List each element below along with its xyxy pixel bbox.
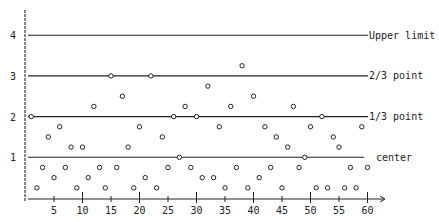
data-point bbox=[240, 64, 244, 68]
data-point bbox=[348, 165, 352, 169]
x-tick-label: 55 bbox=[333, 205, 345, 216]
data-point bbox=[86, 175, 90, 179]
data-point bbox=[297, 165, 301, 169]
data-point bbox=[200, 175, 204, 179]
data-point bbox=[177, 155, 181, 159]
control-chart: 1234 Upper limit2/3 point1/3 pointcenter… bbox=[0, 0, 439, 222]
data-point bbox=[365, 165, 369, 169]
y-tick-label: 4 bbox=[10, 30, 16, 41]
data-point bbox=[286, 145, 290, 149]
reference-lines: Upper limit2/3 point1/3 pointcenter bbox=[28, 30, 435, 163]
data-point bbox=[132, 186, 136, 190]
data-point bbox=[223, 186, 227, 190]
data-point bbox=[291, 104, 295, 108]
data-point bbox=[160, 135, 164, 139]
data-point bbox=[97, 165, 101, 169]
data-point bbox=[29, 114, 33, 118]
reference-line-label: Upper limit bbox=[369, 30, 435, 41]
y-tick-label: 3 bbox=[10, 71, 16, 82]
x-tick-label: 25 bbox=[162, 205, 174, 216]
data-point bbox=[149, 74, 153, 78]
x-tick-label: 5 bbox=[51, 205, 57, 216]
data-point bbox=[172, 114, 176, 118]
data-point bbox=[251, 94, 255, 98]
data-point bbox=[189, 165, 193, 169]
data-point bbox=[211, 175, 215, 179]
data-point bbox=[331, 135, 335, 139]
data-point bbox=[143, 175, 147, 179]
x-axis: 51015202530354045505560 bbox=[28, 192, 385, 216]
data-point bbox=[314, 186, 318, 190]
data-point bbox=[40, 165, 44, 169]
data-point bbox=[63, 165, 67, 169]
data-point bbox=[246, 186, 250, 190]
data-point bbox=[229, 104, 233, 108]
data-point bbox=[217, 125, 221, 129]
data-point bbox=[320, 114, 324, 118]
data-point bbox=[92, 104, 96, 108]
data-point bbox=[183, 104, 187, 108]
x-tick-label: 50 bbox=[304, 205, 316, 216]
x-tick-label: 35 bbox=[219, 205, 231, 216]
y-tick-label: 1 bbox=[10, 152, 16, 163]
x-tick-label: 45 bbox=[276, 205, 288, 216]
data-point bbox=[206, 84, 210, 88]
data-point bbox=[103, 186, 107, 190]
data-point bbox=[166, 165, 170, 169]
data-point bbox=[263, 125, 267, 129]
y-tick-labels: 1234 bbox=[10, 30, 16, 163]
data-points bbox=[29, 64, 370, 191]
data-point bbox=[280, 186, 284, 190]
data-point bbox=[308, 125, 312, 129]
data-point bbox=[303, 155, 307, 159]
data-point bbox=[75, 186, 79, 190]
data-point bbox=[154, 186, 158, 190]
data-point bbox=[343, 186, 347, 190]
data-point bbox=[69, 145, 73, 149]
x-tick-label: 40 bbox=[247, 205, 259, 216]
data-point bbox=[35, 186, 39, 190]
data-point bbox=[257, 175, 261, 179]
data-point bbox=[80, 145, 84, 149]
data-point bbox=[354, 186, 358, 190]
reference-line-label: 1/3 point bbox=[369, 111, 423, 122]
reference-line-label: 2/3 point bbox=[369, 70, 423, 81]
data-point bbox=[325, 186, 329, 190]
y-tick-label: 2 bbox=[10, 112, 16, 123]
data-point bbox=[126, 145, 130, 149]
data-point bbox=[115, 165, 119, 169]
data-point bbox=[337, 145, 341, 149]
data-point bbox=[137, 125, 141, 129]
reference-line-label: center bbox=[376, 152, 412, 163]
x-tick-label: 60 bbox=[361, 205, 373, 216]
x-tick-label: 20 bbox=[133, 205, 145, 216]
data-point bbox=[274, 135, 278, 139]
data-point bbox=[52, 175, 56, 179]
data-point bbox=[360, 125, 364, 129]
data-point bbox=[268, 165, 272, 169]
data-point bbox=[194, 114, 198, 118]
x-tick-label: 30 bbox=[190, 205, 202, 216]
data-point bbox=[109, 74, 113, 78]
x-tick-label: 10 bbox=[76, 205, 88, 216]
data-point bbox=[46, 135, 50, 139]
x-tick-label: 15 bbox=[105, 205, 117, 216]
data-point bbox=[58, 125, 62, 129]
data-point bbox=[234, 165, 238, 169]
data-point bbox=[120, 94, 124, 98]
